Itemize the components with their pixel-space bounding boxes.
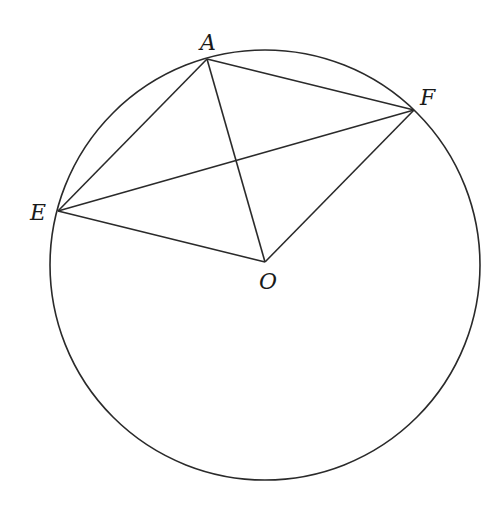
label-f: F [419,85,436,110]
geometry-diagram: A E F O [0,0,498,506]
label-a: A [198,30,216,55]
label-e: E [29,200,46,225]
segment-ef [58,110,414,211]
label-o: O [259,269,277,294]
circle-o [50,50,480,480]
segment-eo [58,211,265,262]
segment-fo [265,110,414,262]
segment-ae [58,59,207,211]
